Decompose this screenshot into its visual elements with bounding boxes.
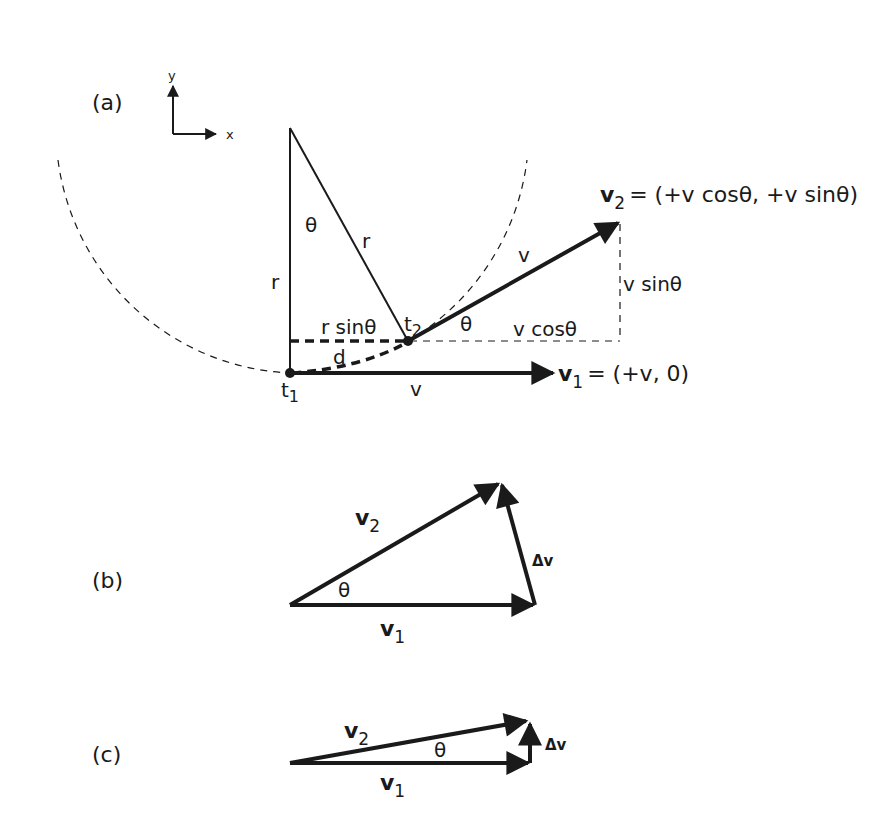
v2-label-c: v2: [344, 718, 369, 749]
circular-path-left-arc: [58, 160, 290, 373]
v2-equation: v2= (+v cosθ, +v sinθ): [600, 182, 858, 213]
axes-icon: y x: [168, 68, 234, 142]
y-axis-label: y: [168, 68, 176, 83]
diagram-canvas: (a) y x θ r r t2 t1: [0, 0, 872, 820]
v2-arrow-b: [290, 484, 498, 605]
delta-v-label-c: Δv: [545, 736, 567, 754]
panel-c-label: (c): [92, 742, 121, 767]
theta-label-b: θ: [338, 578, 350, 602]
dv-arrow-b: [502, 485, 535, 605]
displacement-d: [292, 343, 406, 373]
r-vertical-label: r: [271, 270, 280, 294]
t1-label: t1: [281, 378, 299, 406]
v2-arrow-c: [290, 721, 526, 763]
rsin-label: r sinθ: [321, 315, 376, 339]
v-bottom-label: v: [410, 377, 422, 401]
v1-label-c: v1: [380, 770, 405, 801]
vcos-label: v cosθ: [513, 317, 577, 341]
point-t1: [285, 368, 295, 378]
panel-b: (b) v2 θ v1 Δv: [92, 484, 554, 647]
v1-equation: v1= (+v, 0): [558, 361, 689, 392]
theta-v2-label: θ: [460, 312, 472, 336]
x-axis-label: x: [226, 127, 234, 142]
theta-center-label: θ: [305, 213, 317, 237]
panel-b-label: (b): [92, 568, 123, 593]
panel-a: (a) y x θ r r t2 t1: [58, 68, 858, 406]
panel-c: (c) v2 θ v1 Δv: [92, 718, 567, 801]
v1-label-b: v1: [380, 616, 405, 647]
d-label: d: [333, 345, 346, 369]
vsin-label: v sinθ: [623, 272, 682, 296]
theta-label-c: θ: [434, 738, 446, 762]
v2-label-b: v2: [355, 505, 380, 536]
t2-label: t2: [404, 312, 422, 340]
r-slant-label: r: [362, 229, 371, 253]
panel-a-label: (a): [92, 90, 123, 115]
v-slant-label: v: [518, 243, 530, 267]
delta-v-label-b: Δv: [532, 552, 554, 570]
